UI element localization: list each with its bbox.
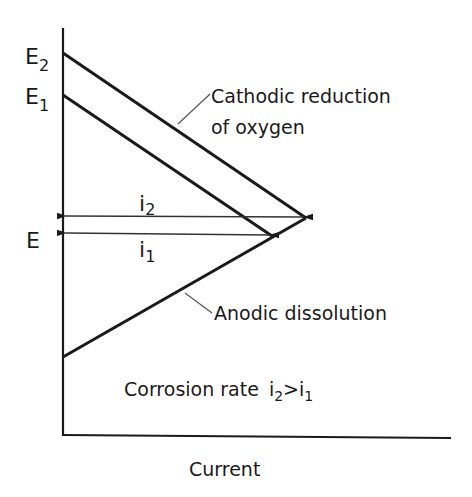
leader-anodic bbox=[185, 293, 212, 313]
label-e: E bbox=[26, 228, 40, 253]
arrow-i2 bbox=[66, 216, 304, 217]
label-corrosion-rate: Corrosion ratei2>i1 bbox=[124, 378, 313, 404]
leader-cathodic bbox=[178, 94, 210, 124]
evans-diagram: E2 E1 E i2 i1 Cathodic reduction of oxyg… bbox=[0, 0, 472, 497]
label-cathodic-line2: of oxygen bbox=[211, 116, 305, 138]
x-axis bbox=[62, 435, 451, 438]
label-e1: E1 bbox=[25, 84, 49, 115]
label-anodic: Anodic dissolution bbox=[214, 302, 387, 324]
label-e2: E2 bbox=[25, 44, 49, 75]
x-axis-label: Current bbox=[189, 458, 260, 480]
anodic-line bbox=[63, 218, 306, 357]
label-i2: i2 bbox=[139, 191, 155, 219]
label-cathodic-line1: Cathodic reduction bbox=[211, 85, 391, 107]
label-i1: i1 bbox=[139, 237, 155, 266]
arrow-i1 bbox=[66, 233, 270, 235]
